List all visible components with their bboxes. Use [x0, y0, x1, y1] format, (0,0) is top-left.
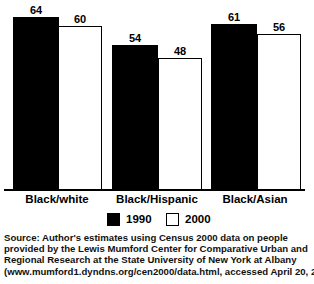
- category-label-black-hispanic: Black/Hispanic: [106, 192, 208, 207]
- value-label-black-hispanic-1990: 54: [112, 32, 158, 44]
- bar-black-asian-2000: [257, 34, 301, 190]
- legend-item-2000: 2000: [166, 211, 211, 227]
- value-label-black-asian-2000: 56: [257, 21, 301, 33]
- bar-black-white-2000: [58, 26, 102, 190]
- category-axis-labels: Black/white Black/Hispanic Black/Asian: [0, 192, 314, 208]
- value-label-black-white-1990: 64: [13, 4, 59, 16]
- source-line-1: Source: Author's estimates using Census …: [4, 232, 312, 243]
- category-label-black-asian: Black/Asian: [207, 192, 303, 207]
- legend-swatch-2000-icon: [166, 213, 179, 226]
- source-line-3: Regional Research at the State Universit…: [4, 254, 312, 265]
- x-axis-line: [4, 189, 305, 191]
- bar-black-hispanic-1990: [112, 45, 158, 190]
- value-label-black-asian-1990: 61: [211, 11, 257, 23]
- bar-chart-figure: 64 60 54 48 61 56 Black/white Black/Hisp…: [0, 0, 314, 284]
- chart-legend: 1990 2000: [0, 211, 314, 229]
- value-label-black-hispanic-2000: 48: [158, 45, 202, 57]
- source-line-4: (www.mumford1.dyndns.org/cen2000/data.ht…: [4, 266, 312, 277]
- bar-black-white-1990: [13, 17, 59, 190]
- source-line-2: provided by the Lewis Mumford Center for…: [4, 243, 312, 254]
- legend-item-1990: 1990: [107, 211, 152, 227]
- bar-black-asian-1990: [211, 24, 257, 190]
- value-label-black-white-2000: 60: [58, 13, 102, 25]
- bar-black-hispanic-2000: [158, 58, 202, 190]
- source-note: Source: Author's estimates using Census …: [4, 232, 312, 277]
- plot-area: 64 60 54 48 61 56: [0, 0, 314, 192]
- legend-swatch-1990-icon: [107, 213, 120, 226]
- category-label-black-white: Black/white: [9, 192, 105, 207]
- legend-label-2000: 2000: [185, 212, 211, 226]
- legend-label-1990: 1990: [126, 212, 152, 226]
